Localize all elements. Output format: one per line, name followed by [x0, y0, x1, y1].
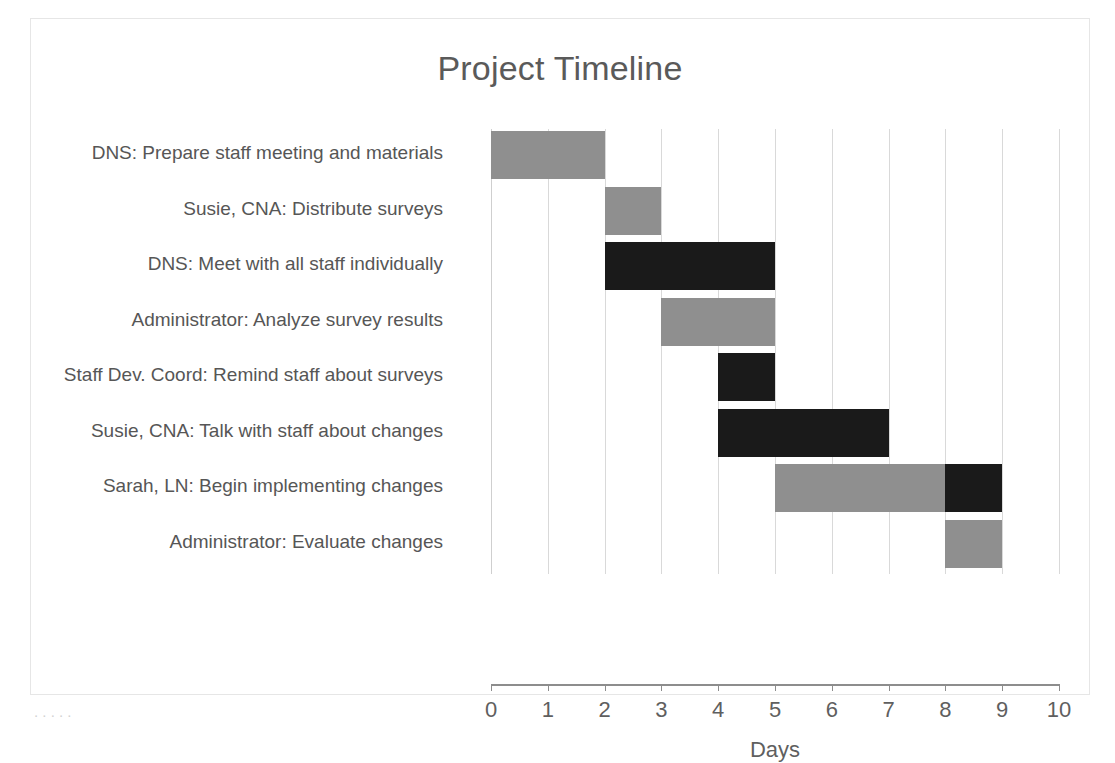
x-tick-label-5: 5	[755, 697, 795, 723]
chart-title: Project Timeline	[31, 49, 1089, 88]
x-tick-label-9: 9	[982, 697, 1022, 723]
gantt-bar-segment[interactable]	[775, 464, 945, 512]
gantt-bar-row[interactable]	[491, 353, 1059, 401]
gantt-plot-area: DNS: Prepare staff meeting and materials…	[491, 129, 1059, 574]
x-tickmark-9	[1002, 684, 1003, 691]
chart-frame: Project Timeline DNS: Prepare staff meet…	[30, 18, 1090, 695]
gantt-bar-segment[interactable]	[718, 353, 775, 401]
gantt-bar-row[interactable]	[491, 409, 1059, 457]
gantt-bar-segment[interactable]	[605, 242, 775, 290]
x-tickmark-6	[832, 684, 833, 691]
gantt-bar-segment[interactable]	[491, 131, 605, 179]
x-tick-label-3: 3	[641, 697, 681, 723]
gantt-bar-row[interactable]	[491, 464, 1059, 512]
category-label: Susie, CNA: Talk with staff about change…	[0, 420, 443, 442]
category-label: Administrator: Analyze survey results	[0, 309, 443, 331]
gantt-bar-segment[interactable]	[661, 298, 775, 346]
category-label: Susie, CNA: Distribute surveys	[0, 198, 443, 220]
x-tick-label-10: 10	[1039, 697, 1079, 723]
gantt-bar-segment[interactable]	[945, 520, 1002, 568]
x-tickmark-3	[661, 684, 662, 691]
gantt-bar-row[interactable]	[491, 187, 1059, 235]
bottom-cut-off-text: . . . . .	[34, 703, 72, 717]
x-tick-label-8: 8	[925, 697, 965, 723]
category-label: Administrator: Evaluate changes	[0, 531, 443, 553]
x-tick-label-1: 1	[528, 697, 568, 723]
x-tick-label-0: 0	[471, 697, 511, 723]
x-tick-label-7: 7	[869, 697, 909, 723]
category-label: DNS: Meet with all staff individually	[0, 253, 443, 275]
category-label: DNS: Prepare staff meeting and materials	[0, 142, 443, 164]
x-tickmark-1	[548, 684, 549, 691]
x-tick-label-2: 2	[585, 697, 625, 723]
gantt-bar-segment[interactable]	[605, 187, 662, 235]
x-tickmark-4	[718, 684, 719, 691]
x-tickmark-10	[1059, 684, 1060, 691]
gantt-bar-row[interactable]	[491, 242, 1059, 290]
x-tickmark-5	[775, 684, 776, 691]
category-label: Sarah, LN: Begin implementing changes	[0, 475, 443, 497]
gantt-bar-row[interactable]	[491, 298, 1059, 346]
x-tickmark-0	[491, 684, 492, 691]
x-tickmark-2	[605, 684, 606, 691]
category-label: Staff Dev. Coord: Remind staff about sur…	[0, 364, 443, 386]
gridline-10	[1059, 129, 1060, 574]
x-tick-label-4: 4	[698, 697, 738, 723]
x-tickmark-7	[889, 684, 890, 691]
gantt-bar-row[interactable]	[491, 520, 1059, 568]
x-tick-label-6: 6	[812, 697, 852, 723]
x-tickmark-8	[945, 684, 946, 691]
gantt-bar-row[interactable]	[491, 131, 1059, 179]
gantt-bar-segment[interactable]	[945, 464, 1002, 512]
gantt-bar-segment[interactable]	[718, 409, 888, 457]
x-axis-title: Days	[491, 737, 1059, 763]
